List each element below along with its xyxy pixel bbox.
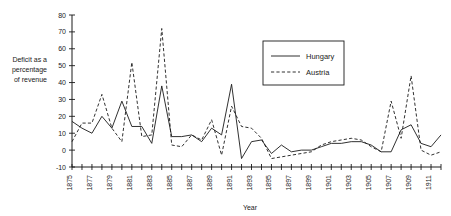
x-tick-label: 1881: [126, 175, 133, 191]
x-tick-label: 1901: [325, 175, 332, 191]
y-tick-label: 0: [62, 147, 66, 154]
y-axis-title-line-1: Deficit as a: [12, 56, 47, 63]
x-tick-label: 1885: [166, 175, 173, 191]
series-line-hungary: [72, 84, 441, 158]
x-tick-label: 1891: [226, 175, 233, 191]
deficit-line-chart: Deficit as a percentage of revenue -1001…: [0, 0, 451, 216]
y-tick-label: 40: [58, 79, 66, 86]
x-tick-label: 1883: [146, 175, 153, 191]
y-tick-label: 60: [58, 45, 66, 52]
x-tick-label: 1879: [106, 175, 113, 191]
x-tick-label: 1911: [425, 175, 432, 190]
x-tick-label: 1907: [385, 175, 392, 191]
legend-label-austria: Austria: [306, 68, 330, 77]
x-tick-label: 1897: [285, 175, 292, 191]
y-tick-label: 10: [58, 130, 66, 137]
y-tick-label: -10: [56, 164, 66, 171]
x-tick-label: 1877: [86, 175, 93, 191]
y-axis-title-line-3: of revenue: [14, 76, 47, 83]
legend-label-hungary: Hungary: [306, 52, 335, 61]
chart-figure: Deficit as a percentage of revenue -1001…: [0, 0, 451, 216]
x-tick-label: 1899: [305, 175, 312, 191]
x-tick-label: 1893: [246, 175, 253, 191]
y-axis-title: Deficit as a percentage of revenue: [12, 56, 47, 83]
x-tick-label: 1889: [206, 175, 213, 191]
y-axis-title-line-2: percentage: [12, 66, 47, 74]
y-tick-label: 20: [58, 113, 66, 120]
x-axis-ticks: 1875187718791881188318851887188918911893…: [66, 164, 441, 191]
x-tick-label: 1875: [66, 175, 73, 191]
x-tick-label: 1903: [345, 175, 352, 191]
x-tick-label: 1887: [186, 175, 193, 191]
x-tick-label: 1895: [265, 175, 272, 191]
y-tick-label: 30: [58, 96, 66, 103]
chart-legend: Hungary Austria: [263, 41, 344, 85]
y-tick-label: 80: [58, 12, 66, 19]
x-axis-title: Year: [243, 204, 258, 211]
series-line-austria: [72, 29, 441, 159]
x-tick-label: 1909: [405, 175, 412, 191]
y-tick-label: 50: [58, 62, 66, 69]
y-tick-label: 70: [58, 28, 66, 35]
legend-box: [263, 41, 344, 85]
x-tick-label: 1905: [365, 175, 372, 191]
